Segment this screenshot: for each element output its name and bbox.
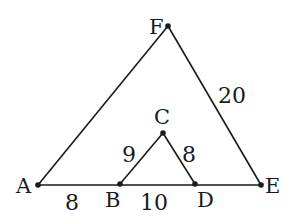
label-a: A xyxy=(15,174,32,198)
geometry-diagram: A B C D E F 8 10 9 8 20 xyxy=(0,0,291,224)
point-c xyxy=(160,130,166,136)
length-ab: 8 xyxy=(65,190,79,215)
length-labels: 8 10 9 8 20 xyxy=(65,83,246,215)
point-f xyxy=(165,23,171,29)
label-e: E xyxy=(265,174,280,198)
length-bd: 10 xyxy=(140,190,168,215)
length-bc: 9 xyxy=(122,142,136,167)
point-e xyxy=(258,182,264,188)
label-d: D xyxy=(197,188,214,212)
segment-af xyxy=(38,26,168,185)
label-b: B xyxy=(105,188,120,212)
point-labels: A B C D E F xyxy=(15,15,280,212)
label-f: F xyxy=(149,15,164,39)
point-a xyxy=(35,182,41,188)
length-cd: 8 xyxy=(182,142,196,167)
label-c: C xyxy=(154,105,170,129)
point-d xyxy=(192,181,198,187)
point-b xyxy=(117,181,123,187)
length-fe: 20 xyxy=(218,83,246,108)
